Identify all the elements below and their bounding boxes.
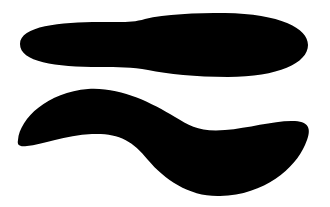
shapes-svg: [0, 0, 330, 207]
artwork-canvas: [0, 0, 330, 207]
